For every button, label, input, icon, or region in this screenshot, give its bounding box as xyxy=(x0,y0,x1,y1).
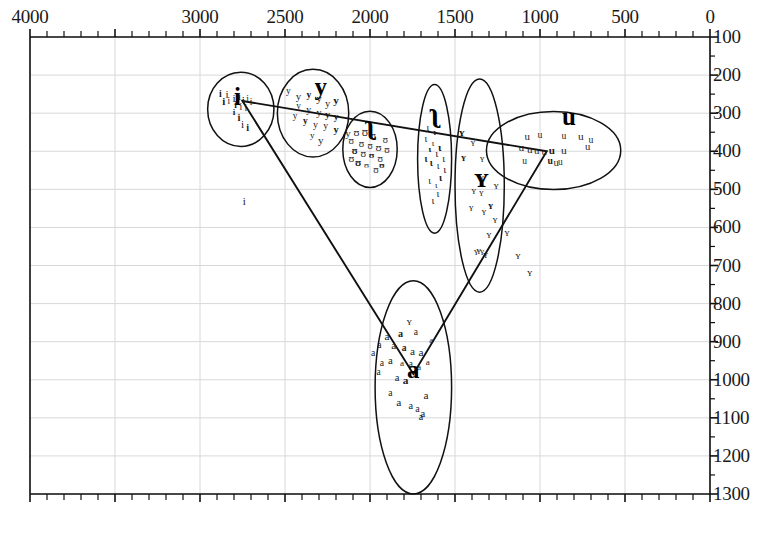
data-point-ɪ: ɩ xyxy=(428,176,431,186)
data-point-a: a xyxy=(396,397,401,408)
data-point-ɪ: ɩ xyxy=(435,149,438,160)
data-point-a: a xyxy=(419,412,423,422)
top-axis-tick-1000: 1000 xyxy=(522,6,559,28)
data-point-ʏ: ʏ xyxy=(493,179,498,190)
cluster-label-ɪ: ʅ xyxy=(430,98,439,129)
right-axis-tick-800: 800 xyxy=(713,293,741,315)
data-point-a: a xyxy=(409,400,414,410)
stray-data-point-ʏ: ʏ xyxy=(504,226,509,237)
data-point-u: u xyxy=(585,141,590,152)
data-point-u: u xyxy=(578,131,584,142)
data-point-ɪ: ɩ xyxy=(425,154,428,164)
data-point-ʏ: ʏ xyxy=(461,154,466,163)
data-point-ʉ: ʊ xyxy=(364,162,369,171)
right-axis-tick-200: 200 xyxy=(713,64,741,86)
data-point-y: y xyxy=(334,113,339,122)
data-point-a: a xyxy=(424,390,429,401)
data-point-y: y xyxy=(286,87,291,97)
data-point-ʏ: ʏ xyxy=(469,203,474,213)
data-point-ʏ: ʏ xyxy=(488,202,493,212)
data-point-y: y xyxy=(293,112,298,121)
data-point-a: a xyxy=(410,347,415,358)
data-point-a: a xyxy=(400,359,404,368)
data-point-ɪ: ɩ xyxy=(439,173,442,183)
data-point-ʉ: ʊ xyxy=(383,136,388,145)
data-point-a: a xyxy=(388,388,392,398)
data-point-ʏ: ʏ xyxy=(483,250,488,260)
data-point-y: y xyxy=(310,131,315,140)
data-point-ʉ: ʊ xyxy=(379,162,385,171)
data-point-ʉ: ʊ xyxy=(348,154,354,165)
data-point-ɪ: ɩ xyxy=(438,143,441,154)
data-point-y: y xyxy=(306,90,311,100)
data-point-ɪ: ɩ xyxy=(433,128,436,137)
data-point-ɪ: ɩ xyxy=(437,189,440,200)
data-point-ʏ: ʏ xyxy=(459,127,465,138)
stray-data-point-ʏ: ʏ xyxy=(527,267,532,278)
data-point-ʉ: ʊ xyxy=(373,165,378,175)
data-point-ʏ: ʏ xyxy=(474,247,479,257)
right-axis-tick-900: 900 xyxy=(713,331,741,353)
vowel-chart-figure: 4000300025002000150010005000100200300400… xyxy=(0,0,757,537)
data-point-ʏ: ʏ xyxy=(486,229,491,240)
data-point-y: y xyxy=(323,122,328,132)
data-point-i: i xyxy=(250,98,253,108)
right-axis-tick-600: 600 xyxy=(713,216,741,238)
chart-canvas xyxy=(0,0,757,537)
data-point-y: y xyxy=(316,93,322,104)
top-axis-tick-2500: 2500 xyxy=(267,6,304,28)
data-point-ɪ: ɩ xyxy=(431,195,434,206)
data-point-a: a xyxy=(395,373,400,384)
data-point-a: a xyxy=(377,340,382,350)
data-point-y: y xyxy=(318,135,324,146)
data-point-ɪ: ɩ xyxy=(432,140,434,149)
right-axis-tick-1100: 1100 xyxy=(713,407,749,429)
data-point-i: i xyxy=(233,109,236,118)
data-point-y: y xyxy=(296,91,301,102)
data-point-i: i xyxy=(222,96,225,107)
data-point-y: y xyxy=(316,107,321,118)
data-point-ɪ: ɩ xyxy=(430,158,433,168)
data-point-ʏ: ʏ xyxy=(479,172,484,183)
data-point-a: a xyxy=(417,363,421,372)
data-point-ʉ: ʊ xyxy=(384,146,389,156)
stray-data-point-y: y xyxy=(345,127,351,138)
data-point-u: u xyxy=(542,147,547,158)
data-point-a: a xyxy=(398,329,403,339)
stray-data-point-ʏ: ʏ xyxy=(515,249,520,260)
data-point-a: a xyxy=(403,375,409,386)
right-axis-tick-500: 500 xyxy=(713,178,741,200)
stray-data-point-i: i xyxy=(243,195,246,206)
data-point-a: a xyxy=(402,344,407,354)
data-point-ɪ: ɩ xyxy=(428,146,431,155)
data-point-u: u xyxy=(561,146,567,157)
data-point-u: u xyxy=(518,143,524,154)
right-axis-tick-100: 100 xyxy=(713,26,741,48)
data-point-u: u xyxy=(527,145,533,156)
data-point-ʏ: ʏ xyxy=(479,189,484,198)
data-point-u: u xyxy=(534,145,539,156)
data-point-i: i xyxy=(245,105,248,114)
data-point-a: a xyxy=(429,336,433,345)
data-point-u: u xyxy=(558,159,563,168)
right-axis-tick-300: 300 xyxy=(713,102,741,124)
data-point-u: u xyxy=(561,131,566,141)
right-axis-tick-1300: 1300 xyxy=(713,483,750,505)
data-point-a: a xyxy=(391,341,396,352)
top-axis-tick-1500: 1500 xyxy=(437,6,474,28)
cluster-label-u: u xyxy=(562,103,576,131)
data-point-ʏ: ʏ xyxy=(470,138,475,148)
data-point-ɪ: ɩ xyxy=(424,134,427,144)
data-point-y: y xyxy=(313,120,318,130)
data-point-ʏ: ʏ xyxy=(480,154,485,164)
right-axis-tick-400: 400 xyxy=(713,140,741,162)
data-point-u: u xyxy=(525,131,530,142)
data-point-a: a xyxy=(376,368,380,377)
data-point-i: i xyxy=(246,94,249,104)
data-point-ʉ: ʊ xyxy=(360,149,366,159)
data-point-ʉ: ʊ xyxy=(353,127,359,138)
data-point-y: y xyxy=(303,117,308,126)
data-point-ɪ: ɩ xyxy=(437,161,440,171)
data-point-ʏ: ʏ xyxy=(481,207,486,217)
data-point-ʉ: ʊ xyxy=(362,127,368,139)
